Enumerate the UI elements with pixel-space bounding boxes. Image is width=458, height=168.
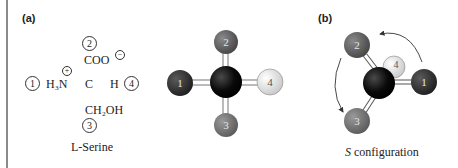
svg-text:2: 2 [223, 36, 229, 48]
svg-text:2: 2 [354, 39, 360, 51]
svg-text:1: 1 [177, 77, 183, 89]
svg-text:3: 3 [354, 115, 360, 127]
rotation-arrow-1-to-2 [380, 33, 422, 62]
configuration-caption: S configuration [345, 145, 419, 160]
svg-text:3: 3 [223, 119, 229, 131]
ball-and-stick-model-a: 2 3 1 4 [167, 30, 283, 137]
rotation-arrow-2-to-3 [335, 58, 343, 112]
central-carbon [210, 66, 242, 98]
panel-b-label: (b) [318, 12, 332, 24]
ball-and-stick-model-b: 4 2 3 1 [335, 32, 437, 134]
svg-text:1: 1 [421, 76, 427, 88]
svg-text:4: 4 [267, 76, 273, 88]
svg-text:4: 4 [394, 59, 399, 70]
configuration-text: configuration [351, 145, 419, 159]
molecular-models: 2 3 1 4 4 2 3 1 [0, 0, 458, 168]
central-carbon [363, 67, 395, 99]
